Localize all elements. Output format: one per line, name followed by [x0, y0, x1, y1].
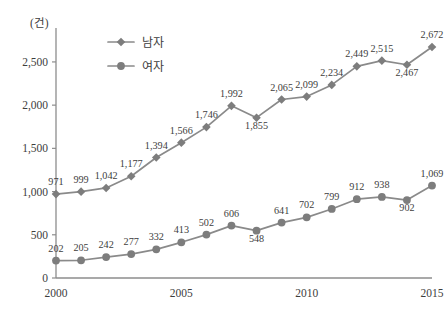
data-label: 2,099 — [295, 79, 318, 90]
data-label: 202 — [48, 243, 63, 254]
circle-marker-icon — [117, 62, 125, 70]
circle-marker-icon — [152, 245, 160, 253]
circle-marker-icon — [303, 213, 311, 221]
legend-label: 남자 — [142, 36, 164, 50]
line-chart: (건) 05001,0001,5002,0002,500 20002005201… — [0, 0, 447, 316]
data-label: 971 — [48, 176, 63, 187]
x-tick-label: 2005 — [170, 287, 193, 299]
data-label: 641 — [274, 205, 289, 216]
circle-marker-icon — [428, 182, 436, 190]
data-label: 799 — [324, 191, 339, 202]
data-label: 1,042 — [95, 170, 118, 181]
y-tick-label: 0 — [42, 272, 48, 284]
x-tick-label: 2015 — [421, 287, 444, 299]
data-label: 1,746 — [195, 109, 218, 120]
data-point-labels: 9719991,0421,1771,3941,5661,7461,9921,85… — [48, 29, 443, 253]
legend-label: 여자 — [142, 60, 164, 74]
y-axis-unit-label: (건) — [30, 17, 49, 30]
data-label: 2,672 — [421, 29, 444, 40]
y-tick-label: 1,500 — [22, 142, 48, 155]
circle-marker-icon — [52, 257, 60, 265]
legend-item-female: 여자 — [108, 60, 164, 74]
circle-marker-icon — [378, 193, 386, 201]
x-tick-label: 2000 — [45, 287, 68, 299]
circle-marker-icon — [353, 195, 361, 203]
data-label: 2,234 — [320, 67, 343, 78]
data-label: 1,855 — [245, 120, 268, 131]
data-label: 1,069 — [421, 168, 444, 179]
data-label: 938 — [374, 179, 389, 190]
data-label: 999 — [73, 174, 88, 185]
data-label: 2,467 — [395, 67, 418, 78]
circle-marker-icon — [127, 250, 135, 258]
x-axis-ticks: 2000200520102015 — [45, 287, 444, 299]
chart-legend: 남자여자 — [108, 36, 164, 74]
diamond-marker-icon — [77, 187, 86, 196]
circle-marker-icon — [203, 231, 211, 239]
data-label: 2,065 — [270, 82, 293, 93]
y-axis-unit: (건) — [30, 17, 49, 30]
data-label: 277 — [124, 236, 139, 247]
y-tick-label: 1,000 — [22, 186, 48, 199]
x-tick-label: 2010 — [295, 287, 318, 299]
circle-marker-icon — [102, 253, 110, 261]
data-label: 902 — [399, 202, 414, 213]
data-label: 332 — [149, 231, 164, 242]
circle-marker-icon — [328, 205, 336, 213]
circle-marker-icon — [228, 222, 236, 230]
data-label: 1,992 — [220, 88, 243, 99]
data-label: 2,515 — [370, 43, 393, 54]
data-label: 912 — [349, 181, 364, 192]
data-label: 242 — [98, 239, 113, 250]
data-label: 606 — [224, 208, 239, 219]
y-tick-label: 500 — [31, 229, 49, 241]
y-tick-label: 2,000 — [22, 99, 48, 112]
data-label: 413 — [174, 224, 189, 235]
y-tick-label: 2,500 — [22, 56, 48, 69]
diamond-marker-icon — [378, 56, 387, 65]
diamond-marker-icon — [117, 38, 126, 47]
legend-item-male: 남자 — [108, 36, 164, 50]
data-label: 205 — [73, 242, 88, 253]
circle-marker-icon — [177, 238, 185, 246]
data-label: 1,394 — [145, 140, 168, 151]
circle-marker-icon — [278, 219, 286, 227]
diamond-marker-icon — [302, 92, 311, 101]
data-label: 1,177 — [120, 158, 143, 169]
diamond-marker-icon — [177, 138, 186, 147]
series-markers — [52, 43, 437, 265]
circle-marker-icon — [77, 256, 85, 264]
chart-canvas: (건) 05001,0001,5002,0002,500 20002005201… — [0, 0, 447, 316]
diamond-marker-icon — [102, 184, 111, 193]
data-label: 502 — [199, 217, 214, 228]
series-lines — [56, 47, 432, 260]
data-label: 548 — [249, 233, 264, 244]
data-label: 1,566 — [170, 125, 193, 136]
data-label: 2,449 — [345, 48, 368, 59]
data-label: 702 — [299, 199, 314, 210]
